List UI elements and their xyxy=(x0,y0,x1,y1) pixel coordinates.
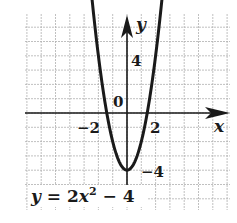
x-tick-label-neg2: −2 xyxy=(77,119,100,137)
x-axis-label: x xyxy=(213,116,225,136)
equation-rest: − 4 xyxy=(97,186,135,206)
y-tick-label-4: 4 xyxy=(131,52,141,70)
y-axis-label: y xyxy=(135,14,147,34)
parabola-graph: y x 4 −4 −2 2 0 y = 2x2 − 4 xyxy=(0,0,237,223)
equation-exponent: 2 xyxy=(89,185,97,198)
y-tick-label-neg4: −4 xyxy=(141,163,164,181)
x-tick-label-2: 2 xyxy=(150,119,160,137)
equation-label: y = 2x2 − 4 xyxy=(30,185,135,206)
origin-label: 0 xyxy=(113,93,123,111)
equation-eq: = 2 xyxy=(41,186,79,206)
